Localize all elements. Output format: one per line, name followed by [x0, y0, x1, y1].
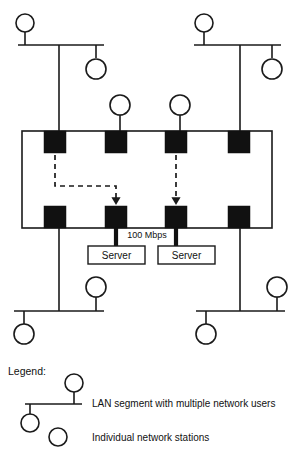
- station-bottom-right-a: [267, 277, 287, 297]
- backbone-port-top-1: [44, 131, 66, 153]
- station-top-right-b: [262, 59, 282, 79]
- backbone-port-bottom-1: [44, 206, 66, 228]
- server-links: 100 Mbps: [116, 228, 176, 246]
- server-left: Server: [88, 246, 145, 264]
- legend-item-label-1: Individual network stations: [92, 432, 209, 443]
- backbone-port-bottom-4: [228, 206, 250, 228]
- backbone-port-bottom-2: [105, 206, 127, 228]
- station-top-center-right: [170, 95, 190, 115]
- legend-title: Legend:: [8, 365, 46, 377]
- network-diagram: 100 Mbps Server Server: [0, 0, 294, 453]
- server-right: Server: [158, 246, 215, 264]
- station-bottom-left-b: [14, 324, 34, 344]
- station-bottom-left-a: [86, 277, 106, 297]
- backbone-port-top-3: [165, 131, 187, 153]
- legend-lan-segment-icon: [21, 374, 83, 432]
- network-diagram-canvas: 100 Mbps Server Server: [0, 0, 294, 453]
- station-top-left-b: [86, 59, 106, 79]
- station-top-left-a: [16, 14, 34, 32]
- legend-lan-station-lower: [21, 414, 39, 432]
- backbone-port-top-2: [105, 131, 127, 153]
- station-bottom-right-b: [196, 324, 216, 344]
- server-label-right: Server: [172, 250, 202, 261]
- station-top-right-a: [195, 14, 213, 32]
- legend: Legend: LAN segment with multiple networ…: [8, 365, 275, 446]
- legend-lan-station-upper: [65, 374, 83, 392]
- legend-station-icon: [49, 428, 67, 446]
- station-top-center-left: [110, 95, 130, 115]
- lan-segment-top-left: [16, 14, 106, 131]
- lan-segment-top-right: [194, 14, 282, 131]
- backbone-chassis: [22, 131, 272, 228]
- backbone-port-bottom-3: [165, 206, 187, 228]
- backbone-port-top-4: [228, 131, 250, 153]
- speed-label: 100 Mbps: [127, 230, 167, 240]
- legend-item-label-0: LAN segment with multiple network users: [92, 398, 275, 409]
- standalone-stations-top: [110, 95, 190, 131]
- server-label-left: Server: [102, 250, 132, 261]
